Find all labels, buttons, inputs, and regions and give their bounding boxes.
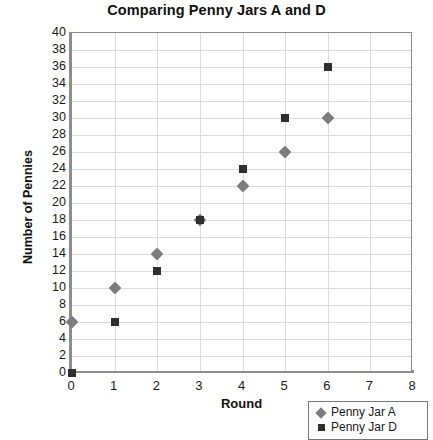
data-point — [153, 267, 161, 275]
y-axis-tick: 12 — [2, 263, 66, 277]
data-point — [151, 248, 164, 261]
y-axis-tick: 2 — [2, 348, 66, 362]
y-axis-tick: 36 — [2, 59, 66, 73]
gridline-horizontal — [72, 135, 411, 136]
legend-item: Penny Jar A — [314, 405, 422, 420]
plot-area — [71, 32, 412, 372]
gridline-horizontal — [72, 305, 411, 306]
y-axis-tick: 38 — [2, 42, 66, 56]
y-axis-tick: 6 — [2, 314, 66, 328]
legend-item: Penny Jar D — [314, 420, 422, 435]
y-axis-tick-labels: 0246810121416182022242628303234363840 — [0, 0, 66, 438]
gridline-vertical — [200, 33, 201, 371]
y-axis-tick: 10 — [2, 280, 66, 294]
data-point — [239, 165, 247, 173]
gridline-horizontal — [72, 67, 411, 68]
gridline-horizontal — [72, 254, 411, 255]
gridline-vertical — [370, 33, 371, 371]
data-point — [108, 282, 121, 295]
gridline-horizontal — [72, 101, 411, 102]
x-axis-tick: 3 — [184, 378, 214, 393]
y-axis-tick: 40 — [2, 25, 66, 39]
y-axis-tick: 24 — [2, 161, 66, 175]
y-axis-tick: 8 — [2, 297, 66, 311]
y-axis-tick: 26 — [2, 144, 66, 158]
diamond-marker-icon — [314, 409, 328, 417]
x-axis-tick: 2 — [141, 378, 171, 393]
y-axis-tick: 0 — [2, 365, 66, 379]
gridline-horizontal — [72, 271, 411, 272]
data-point — [321, 112, 334, 125]
y-axis-tick: 18 — [2, 212, 66, 226]
gridline-horizontal — [72, 339, 411, 340]
gridline-horizontal — [72, 220, 411, 221]
legend-label: Penny Jar D — [331, 420, 397, 435]
gridline-horizontal — [72, 152, 411, 153]
data-point — [281, 114, 289, 122]
gridline-horizontal — [72, 50, 411, 51]
legend-label: Penny Jar A — [331, 405, 396, 420]
data-point — [68, 369, 76, 377]
square-marker-icon — [314, 424, 328, 431]
x-axis-tick: 0 — [56, 378, 86, 393]
x-axis-tick: 1 — [99, 378, 129, 393]
y-axis-tick: 32 — [2, 93, 66, 107]
y-axis-tick: 30 — [2, 110, 66, 124]
data-point — [324, 63, 332, 71]
x-axis-tick: 5 — [269, 378, 299, 393]
x-axis-tick: 4 — [227, 378, 257, 393]
gridline-horizontal — [72, 203, 411, 204]
chart-legend: Penny Jar APenny Jar D — [308, 401, 428, 440]
gridline-horizontal — [72, 356, 411, 357]
gridline-vertical — [157, 33, 158, 371]
data-point — [236, 180, 249, 193]
gridline-horizontal — [72, 322, 411, 323]
gridline-horizontal — [72, 237, 411, 238]
y-axis-tick: 22 — [2, 178, 66, 192]
x-axis-tick: 8 — [397, 378, 427, 393]
gridline-vertical — [285, 33, 286, 371]
y-axis-tick: 28 — [2, 127, 66, 141]
gridline-vertical — [243, 33, 244, 371]
y-axis-tick: 34 — [2, 76, 66, 90]
y-axis-tick: 4 — [2, 331, 66, 345]
data-point — [279, 146, 292, 159]
gridline-horizontal — [72, 288, 411, 289]
y-axis-tick: 14 — [2, 246, 66, 260]
data-point — [196, 216, 204, 224]
gridline-horizontal — [72, 84, 411, 85]
y-axis-tick: 16 — [2, 229, 66, 243]
x-axis-tick: 7 — [354, 378, 384, 393]
y-axis-tick: 20 — [2, 195, 66, 209]
gridline-vertical — [328, 33, 329, 371]
gridline-horizontal — [72, 118, 411, 119]
data-point — [66, 316, 79, 329]
x-axis-tick: 6 — [312, 378, 342, 393]
data-point — [111, 318, 119, 326]
